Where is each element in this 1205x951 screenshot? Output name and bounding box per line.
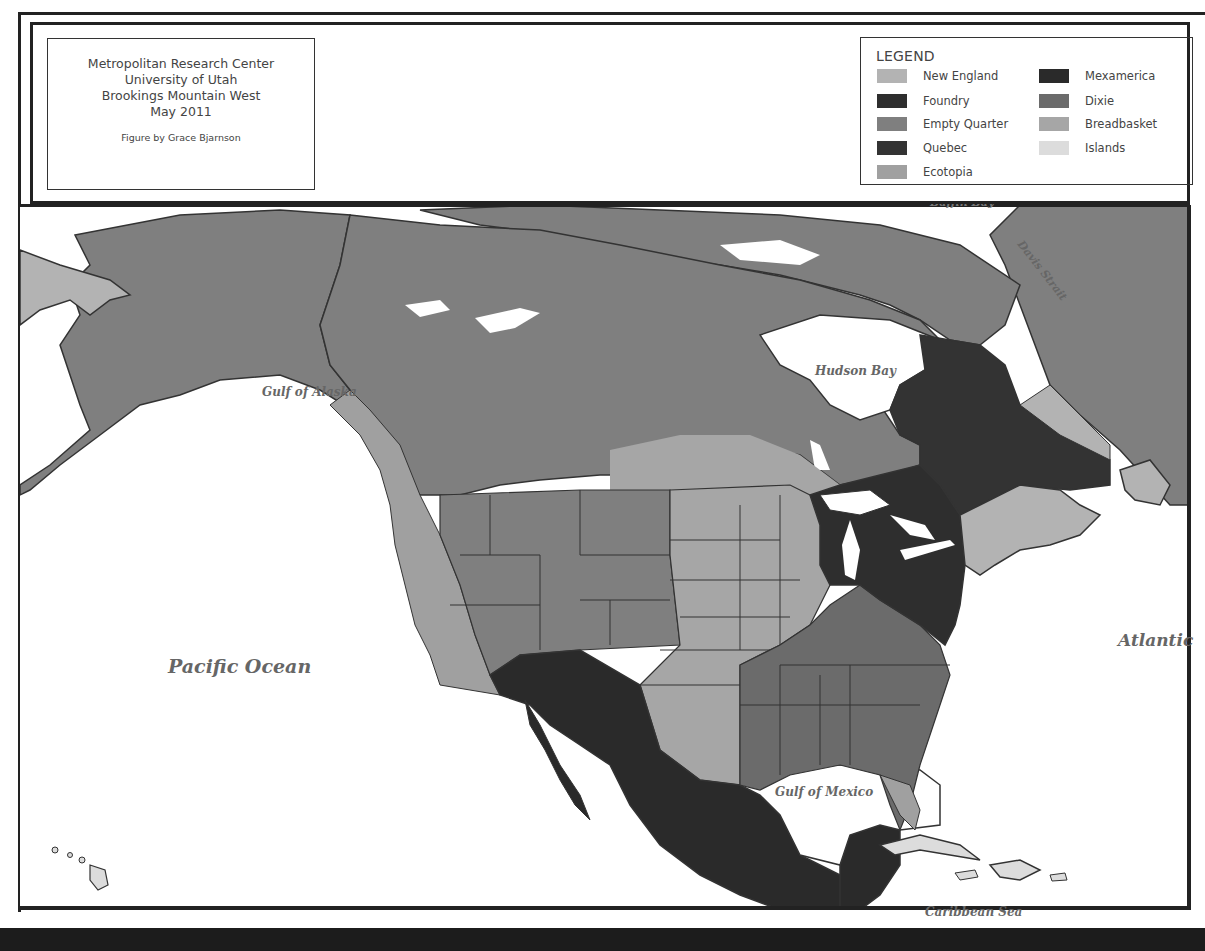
legend-label: Foundry bbox=[923, 94, 970, 108]
legend-label: Mexamerica bbox=[1085, 69, 1155, 83]
legend-label: Breadbasket bbox=[1085, 117, 1157, 131]
label-gulf-of-mexico: Gulf of Mexico bbox=[775, 785, 873, 799]
swatch-quebec bbox=[877, 141, 907, 155]
swatch-islands bbox=[1039, 141, 1069, 155]
swatch-empty-quarter bbox=[877, 117, 907, 131]
legend-label: Empty Quarter bbox=[923, 117, 1008, 131]
legend-item-ecotopia: Ecotopia bbox=[877, 164, 973, 180]
swatch-breadbasket bbox=[1039, 117, 1069, 131]
legend-item-mexamerica: Mexamerica bbox=[1039, 68, 1155, 84]
credit-line-4: May 2011 bbox=[48, 104, 314, 120]
swatch-mexamerica bbox=[1039, 69, 1069, 83]
figure-credit: Figure by Grace Bjarnson bbox=[48, 132, 314, 143]
label-hudson-bay: Hudson Bay bbox=[815, 364, 896, 378]
legend-item-foundry: Foundry bbox=[877, 93, 970, 109]
legend-item-breadbasket: Breadbasket bbox=[1039, 116, 1157, 132]
credit-line-2: University of Utah bbox=[48, 72, 314, 88]
label-gulf-of-alaska: Gulf of Alaska bbox=[262, 385, 357, 399]
legend-item-islands: Islands bbox=[1039, 140, 1125, 156]
legend-label: New England bbox=[923, 69, 998, 83]
label-atlantic: Atlantic bbox=[1118, 630, 1193, 650]
bottom-dark-band bbox=[0, 928, 1205, 951]
label-caribbean-sea: Caribbean Sea bbox=[925, 905, 1022, 919]
map-right-border bbox=[1187, 205, 1191, 910]
legend: LEGEND New England Foundry Empty Quarter… bbox=[860, 37, 1193, 185]
label-pacific-ocean: Pacific Ocean bbox=[168, 655, 311, 677]
credit-box: Metropolitan Research Center University … bbox=[47, 38, 315, 190]
map-canvas bbox=[20, 205, 1190, 910]
credit-line-3: Brookings Mountain West bbox=[48, 88, 314, 104]
legend-item-empty-quarter: Empty Quarter bbox=[877, 116, 1008, 132]
legend-label: Quebec bbox=[923, 141, 967, 155]
legend-item-new-england: New England bbox=[877, 68, 998, 84]
swatch-ecotopia bbox=[877, 165, 907, 179]
swatch-foundry bbox=[877, 94, 907, 108]
swatch-dixie bbox=[1039, 94, 1069, 108]
legend-label: Ecotopia bbox=[923, 165, 973, 179]
legend-label: Islands bbox=[1085, 141, 1125, 155]
legend-item-quebec: Quebec bbox=[877, 140, 967, 156]
legend-title: LEGEND bbox=[876, 48, 935, 64]
swatch-new-england bbox=[877, 69, 907, 83]
north-america-map bbox=[20, 205, 1190, 910]
legend-label: Dixie bbox=[1085, 94, 1114, 108]
credit-line-1: Metropolitan Research Center bbox=[48, 56, 314, 72]
legend-item-dixie: Dixie bbox=[1039, 93, 1114, 109]
map-top-border bbox=[20, 204, 1190, 207]
